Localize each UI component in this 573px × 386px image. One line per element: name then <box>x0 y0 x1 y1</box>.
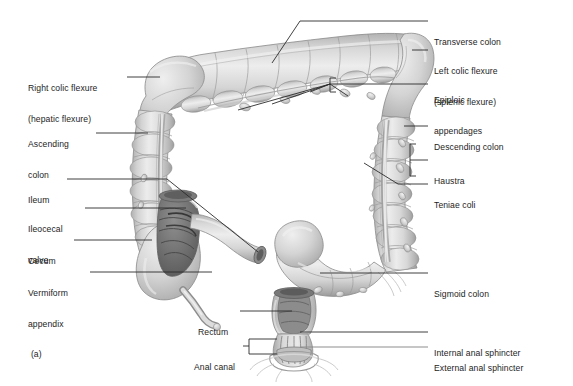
bracket-anal-canal <box>243 339 277 354</box>
label-right-colic-flexure-line1: Right colic flexure <box>28 83 97 93</box>
label-sigmoid-colon: Sigmoid colon <box>434 268 489 310</box>
label-teniae-coli: Teniae coli <box>434 179 476 221</box>
label-vermiform-appendix: Vermiform appendix <box>28 267 68 340</box>
label-anal-canal: Anal canal <box>194 341 235 383</box>
label-vermiform-appendix-line1: Vermiform <box>28 288 68 298</box>
label-cecum-line1: Cecum <box>28 256 56 266</box>
anal-canal-segment <box>250 334 338 382</box>
label-vermiform-appendix-line2: appendix <box>28 319 68 329</box>
label-ileocecal-valve-line1: Ileocecal <box>28 224 63 234</box>
label-anal-canal-line1: Anal canal <box>194 362 235 372</box>
label-external-anal-sphincter: External anal sphincter <box>434 342 523 384</box>
descending-colon-segment <box>368 116 419 272</box>
label-teniae-coli-line1: Teniae coli <box>434 200 476 210</box>
label-sigmoid-colon-line1: Sigmoid colon <box>434 289 489 299</box>
label-external-anal-sphincter-line1: External anal sphincter <box>434 363 523 373</box>
label-ascending-colon-line1: Ascending <box>28 139 69 149</box>
label-descending-colon-line1: Descending colon <box>434 142 504 152</box>
label-rectum-line1: Rectum <box>198 327 228 337</box>
anatomical-figure-large-intestine: Right colic flexure (hepatic flexure) As… <box>0 0 573 386</box>
label-epiploic-appendages-line1: Epiploic <box>434 95 482 105</box>
figure-panel-letter: (a) <box>31 349 42 359</box>
ileum-segment <box>190 214 268 265</box>
